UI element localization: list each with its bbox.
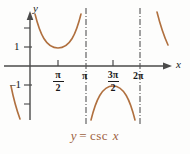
y-tick-label-1: 1	[14, 41, 20, 52]
x-tick-label-3pi-over-2: 3π 2	[103, 70, 123, 93]
csc-graph-figure: y x 1 –1 π 2 π 3π 2 2π y=csc x	[0, 0, 190, 154]
x-axis	[4, 63, 172, 70]
caption-variable: x	[113, 128, 119, 143]
caption-equals: =	[77, 128, 89, 143]
x-tick-label-2pi: 2π	[133, 70, 143, 81]
three-pi-over-2-numerator: 3π	[103, 70, 123, 81]
x-tick-label-pi-over-2: π 2	[50, 70, 66, 93]
caption-function-name: csc	[89, 128, 109, 143]
x-tick-label-pi: π	[82, 70, 87, 81]
pi-over-2-denominator: 2	[50, 83, 66, 94]
csc-branch-left-partial	[11, 86, 20, 119]
y-tick-label-minus-1: –1	[10, 79, 21, 90]
y-axis-label: y	[33, 3, 38, 14]
three-pi-over-2-denominator: 2	[103, 83, 123, 94]
x-axis-label: x	[176, 59, 181, 70]
figure-caption: y=csc x	[0, 128, 190, 144]
pi-over-2-numerator: π	[50, 70, 66, 81]
csc-branch-0-pi	[35, 14, 81, 48]
csc-branch-right-partial	[157, 12, 168, 45]
